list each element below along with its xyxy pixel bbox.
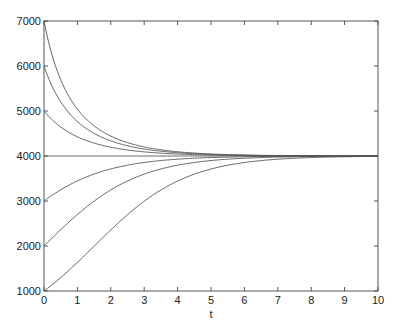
x-tick-label: 1 [74,294,80,306]
y-tick-label: 4000 [17,150,41,162]
x-tick-label: 3 [141,294,147,306]
y-tick-label: 6000 [17,60,41,72]
x-tick-label: 6 [241,294,247,306]
x-tick-label: 10 [372,294,384,306]
curve-2000 [44,156,378,246]
y-tick-label: 3000 [17,195,41,207]
x-tick-label: 7 [275,294,281,306]
x-tick-label: 8 [308,294,314,306]
x-tick-label: 4 [175,294,181,306]
curves [44,21,378,291]
x-tick-label: 5 [208,294,214,306]
curve-1000 [44,156,378,291]
y-tick-label: 5000 [17,105,41,117]
y-tick-label: 2000 [17,240,41,252]
x-tick-label: 9 [342,294,348,306]
x-tick-label: 0 [41,294,47,306]
x-axis-label: t [209,308,212,320]
curve-6000 [44,66,378,156]
y-tick-label: 7000 [17,15,41,27]
curve-7000 [44,21,378,156]
logistic-chart: 012345678910 100020003000400050006000700… [0,0,398,330]
x-axis-ticks: 012345678910 [41,21,384,306]
y-tick-label: 1000 [17,285,41,297]
curve-3000 [44,156,378,201]
x-tick-label: 2 [108,294,114,306]
